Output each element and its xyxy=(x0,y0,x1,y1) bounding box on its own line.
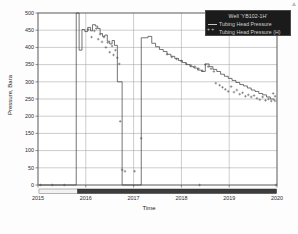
y-tick-label: 300 xyxy=(14,79,34,85)
y-tick-label: 500 xyxy=(14,10,34,16)
legend-entry-label: Tubing Head Pressure (H) xyxy=(219,28,281,36)
y-tick-label: 0 xyxy=(14,182,34,188)
legend-entry-label: Tubing Head Pressure xyxy=(219,20,272,28)
y-tick-label: 350 xyxy=(14,61,34,67)
x-tick-label: 2015 xyxy=(25,195,51,201)
legend-collapse-triangle-icon[interactable] xyxy=(291,1,297,7)
x-axis-title: Time xyxy=(0,205,298,211)
legend-line-swatch-icon xyxy=(208,24,217,25)
legend-plus-marker-icon xyxy=(208,29,217,35)
x-tick-label: 2018 xyxy=(168,195,194,201)
y-tick-label: 50 xyxy=(14,165,34,171)
legend-entry-tubing-head-pressure-h[interactable]: Tubing Head Pressure (H) xyxy=(208,28,288,36)
pressure-time-chart: Well 'YB102-1H' Tubing Head Pressure Tub… xyxy=(0,0,298,234)
chart-legend[interactable]: Well 'YB102-1H' Tubing Head Pressure Tub… xyxy=(205,10,291,36)
y-tick-label: 400 xyxy=(14,44,34,50)
legend-title: Well 'YB102-1H' xyxy=(208,12,288,20)
y-tick-label: 450 xyxy=(14,27,34,33)
x-tick-label: 2019 xyxy=(216,195,242,201)
y-tick-label: 250 xyxy=(14,96,34,102)
x-tick-label: 2017 xyxy=(121,195,147,201)
y-tick-label: 200 xyxy=(14,113,34,119)
y-tick-label: 150 xyxy=(14,130,34,136)
y-tick-label: 100 xyxy=(14,147,34,153)
x-tick-label: 2020 xyxy=(264,195,290,201)
y-axis-title: Pressure, Bara xyxy=(7,59,13,131)
x-tick-label: 2016 xyxy=(73,195,99,201)
legend-entry-tubing-head-pressure[interactable]: Tubing Head Pressure xyxy=(208,20,288,28)
